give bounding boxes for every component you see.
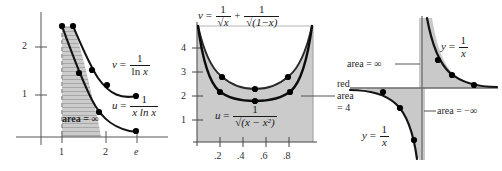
label-lower-eq: = xyxy=(370,129,376,141)
curve-label-u-eq: = xyxy=(120,99,126,111)
marker-v-mid-3 xyxy=(285,74,291,80)
label-upper-fraction: 1 x xyxy=(459,35,469,59)
panel-right-hyperbola: y = 1 x y = 1 x area = ∞ area = −∞ xyxy=(340,0,502,171)
title-term1: 1 √x xyxy=(216,4,231,28)
ln-operator: ln xyxy=(132,65,141,77)
curve-label-u-fraction: 1 x ln x xyxy=(130,94,158,118)
curve-label-u-mid-fraction: 1 √(x − x²) xyxy=(233,104,276,128)
label-upper-eq: = xyxy=(449,40,455,52)
y-tick-label-1: 1 xyxy=(22,88,27,99)
curve-label-u-middle: u = 1 √(x − x²) xyxy=(215,104,278,128)
den-variable-x: x xyxy=(132,106,137,118)
curve-label-lower-left: y = 1 x xyxy=(362,124,390,148)
x-tick-label-p6: .6 xyxy=(260,150,268,161)
x-tick-label-1: 1 xyxy=(59,146,64,157)
curve-label-u-left: u = 1 x ln x xyxy=(112,94,159,118)
area-label-left: area = ∞ xyxy=(62,113,99,124)
panel-middle-title: v = 1 √x + 1 √(1−x) xyxy=(198,4,280,28)
den-variable: x xyxy=(143,65,148,77)
label-upper-denominator: x xyxy=(459,48,469,60)
x-tick-label-e: e xyxy=(134,146,138,157)
marker-u-mid-3 xyxy=(287,89,293,95)
x-tick-label-p8: .8 xyxy=(283,150,291,161)
panel-middle-sqrt-comparison: v = 1 √x + 1 √(1−x) 4 3 2 1 .2 .4 .6 .8 … xyxy=(165,0,345,171)
x-tick-label-p2: .2 xyxy=(214,150,222,161)
title-term2-denominator: √(1−x) xyxy=(244,17,279,29)
label-upper-numerator: 1 xyxy=(459,35,469,48)
marker-u-2 xyxy=(76,70,82,76)
marker-v-3 xyxy=(104,82,110,88)
curve-label-u-mid-denominator: √(x − x²) xyxy=(233,117,276,129)
title-term2-numerator: 1 xyxy=(244,4,279,17)
marker-v-1 xyxy=(70,23,76,29)
title-term1-denominator: √x xyxy=(216,17,231,29)
curve-label-u-denominator: x ln x xyxy=(130,107,158,119)
label-lower-denominator: x xyxy=(380,137,390,149)
title-term2: 1 √(1−x) xyxy=(244,4,279,28)
curve-label-v-eq: = xyxy=(120,58,126,70)
curve-label-v-lhs: v xyxy=(112,58,117,70)
y-tick-label-4: 4 xyxy=(181,42,186,53)
marker-v-mid-1 xyxy=(219,74,225,80)
label-lower-lhs: y xyxy=(362,129,367,141)
curve-label-u-mid-numerator: 1 xyxy=(233,104,276,117)
curve-label-v-left: v = 1 ln x xyxy=(112,53,151,77)
figure-root: 2 1 1 2 e area = ∞ v = 1 ln x u = 1 x ln… xyxy=(0,0,502,171)
y-tick-label-2: 2 xyxy=(22,40,27,51)
marker-hyp-upper-3 xyxy=(471,82,477,88)
marker-hyp-lower-1 xyxy=(380,89,386,95)
area-label-positive: area = ∞ xyxy=(347,58,381,69)
title-lhs: v xyxy=(198,9,203,21)
y-tick-label-3: 3 xyxy=(181,66,186,77)
curve-label-upper-right: y = 1 x xyxy=(441,35,469,59)
marker-hyp-upper-2 xyxy=(449,72,455,78)
area-label-negative: area = −∞ xyxy=(437,105,477,116)
x-tick-label-2: 2 xyxy=(103,146,108,157)
curve-label-v-denominator: ln x xyxy=(130,66,150,78)
label-upper-lhs: y xyxy=(441,40,446,52)
marker-u-mid-1 xyxy=(217,89,223,95)
curve-label-u-lhs: u xyxy=(112,99,118,111)
marker-u-1 xyxy=(59,23,65,29)
curve-label-u-mid-eq: = xyxy=(223,109,229,121)
marker-hyp-lower-2 xyxy=(397,105,403,111)
den-lnx: ln x xyxy=(140,106,156,118)
marker-hyp-lower-3 xyxy=(411,137,417,143)
curve-label-u-mid-lhs: u xyxy=(215,109,221,121)
marker-v-mid-2 xyxy=(252,86,258,92)
title-term1-numerator: 1 xyxy=(216,4,231,17)
panel-left-log-integral: 2 1 1 2 e area = ∞ v = 1 ln x u = 1 x ln… xyxy=(0,0,170,171)
marker-v-2 xyxy=(89,67,95,73)
label-lower-fraction: 1 x xyxy=(380,124,390,148)
label-lower-numerator: 1 xyxy=(380,124,390,137)
x-tick-label-p4: .4 xyxy=(237,150,245,161)
marker-u-4 xyxy=(133,128,139,134)
panel-left-plot xyxy=(0,0,170,171)
y-tick-label-2: 2 xyxy=(181,90,186,101)
title-plus: + xyxy=(234,9,240,21)
y-tick-label-1: 1 xyxy=(181,114,186,125)
curve-label-v-fraction: 1 ln x xyxy=(130,53,150,77)
title-eq: = xyxy=(206,9,212,21)
